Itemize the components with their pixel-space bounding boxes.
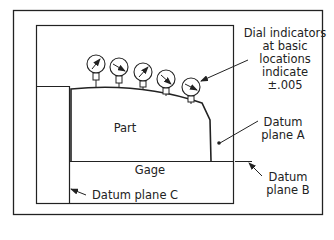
datum-b-label: Datum plane B bbox=[263, 171, 313, 197]
datum-c-leader bbox=[71, 189, 86, 195]
datum-a-dot bbox=[217, 141, 221, 145]
dial-indicator-3 bbox=[134, 63, 152, 89]
dial-indicators-label: Dial indicators at basic locations indic… bbox=[240, 27, 330, 92]
datum-b-leader bbox=[249, 163, 262, 176]
datum-c-label: Datum plane C bbox=[92, 189, 178, 202]
datum-b-line-2: plane B bbox=[263, 184, 313, 197]
datum-a-leader bbox=[220, 121, 258, 143]
part-label: Part bbox=[110, 122, 140, 135]
dial-indicator-2 bbox=[110, 58, 128, 87]
gage-left-block bbox=[37, 87, 70, 204]
dial-indicator-5 bbox=[182, 78, 200, 104]
datum-a-label: Datum plane A bbox=[258, 116, 308, 142]
dial-indicator-1 bbox=[87, 55, 105, 87]
gage-label: Gage bbox=[130, 164, 170, 177]
datum-a-line-2: plane A bbox=[258, 129, 308, 142]
dial-label-line-5: ±.005 bbox=[240, 79, 330, 92]
